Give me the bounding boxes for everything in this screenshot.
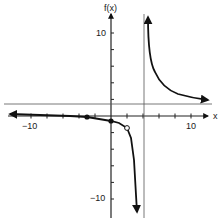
filled-point-0-neg1 <box>108 118 113 123</box>
y-tick-label-neg10: −10 <box>90 193 105 203</box>
x-axis-label: x <box>213 111 218 121</box>
axes <box>8 14 208 218</box>
x-tick-label-10: 10 <box>186 121 196 131</box>
right-branch-curve <box>148 17 208 100</box>
open-point-2-neg3 <box>125 126 130 131</box>
filled-point-neg2-0 <box>84 114 89 119</box>
y-tick-label-10: 10 <box>96 28 106 38</box>
y-axis-label: f(x) <box>104 3 117 13</box>
function-graph: f(x) x 10 −10 −10 10 <box>0 0 223 224</box>
x-tick-label-neg10: −10 <box>22 121 37 131</box>
